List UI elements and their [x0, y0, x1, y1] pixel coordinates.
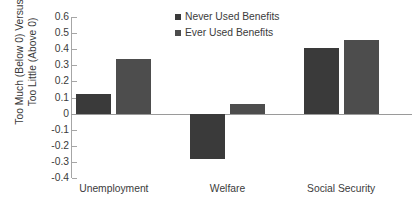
- zero-baseline: [71, 114, 412, 115]
- y-axis-tick-mark: [72, 17, 77, 18]
- bar-chart: Too Much (Below 0) Versus Too Little (Ab…: [0, 0, 416, 197]
- y-axis-tick-mark: [72, 81, 77, 82]
- y-axis-title-line-2: Too Little (Above 0): [27, 18, 40, 107]
- y-axis-tick-label: -0.2: [51, 139, 69, 152]
- y-axis-tick-label: 0.1: [55, 91, 69, 104]
- y-axis-tick: 0.3: [29, 65, 77, 66]
- y-axis-tick: 0.2: [29, 81, 77, 82]
- y-axis-tick-label: 0: [63, 107, 69, 120]
- y-axis-tick: 0.6: [29, 17, 77, 18]
- y-axis-tick-label: 0.6: [55, 10, 69, 23]
- x-axis-category-label: Unemployment: [54, 183, 174, 194]
- y-axis-tick-mark: [72, 178, 77, 179]
- y-axis-tick-mark: [72, 162, 77, 163]
- y-axis-tick-mark: [72, 33, 77, 34]
- y-axis-tick-label: -0.1: [51, 123, 69, 136]
- bar: [76, 94, 111, 113]
- bar: [190, 114, 225, 159]
- y-axis-tick-label: 0.5: [55, 26, 69, 39]
- bar: [304, 48, 339, 114]
- y-axis-tick-mark: [72, 49, 77, 50]
- y-axis-tick: -0.2: [29, 146, 77, 147]
- y-axis-tick: -0.3: [29, 162, 77, 163]
- y-axis-tick-mark: [72, 65, 77, 66]
- y-axis-tick: -0.4: [29, 178, 77, 179]
- y-axis-tick-mark: [72, 146, 77, 147]
- y-axis-tick-mark: [72, 130, 77, 131]
- y-axis-tick: -0.1: [29, 130, 77, 131]
- plot-area: 0.60.50.40.30.20.10-0.1-0.2-0.3-0.4 Unem…: [71, 17, 412, 178]
- x-axis-category-label: Social Security: [281, 183, 401, 194]
- y-axis-tick-label: 0.4: [55, 42, 69, 55]
- x-axis-category-label: Welfare: [168, 183, 288, 194]
- y-axis-tick-label: 0.2: [55, 74, 69, 87]
- y-axis-title-line-1: Too Much (Below 0) Versus: [14, 0, 27, 125]
- y-axis-title: Too Much (Below 0) Versus Too Little (Ab…: [10, 0, 44, 140]
- y-axis-tick: 0.5: [29, 33, 77, 34]
- y-axis-tick-label: 0.3: [55, 58, 69, 71]
- bar: [116, 59, 151, 114]
- y-axis-tick: 0: [29, 114, 77, 115]
- y-axis-tick: 0.1: [29, 98, 77, 99]
- bar: [344, 40, 379, 114]
- y-axis-tick-label: -0.3: [51, 155, 69, 168]
- bar: [230, 104, 265, 114]
- y-axis-tick: 0.4: [29, 49, 77, 50]
